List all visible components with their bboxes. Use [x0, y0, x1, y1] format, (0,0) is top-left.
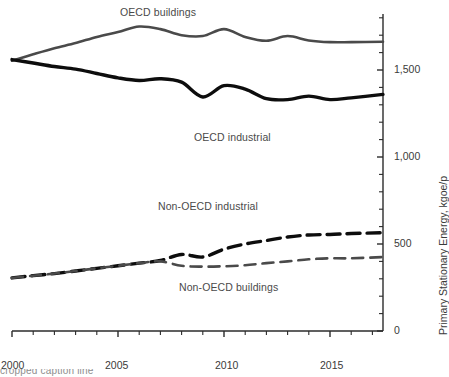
cropped-caption: cropped caption line [0, 369, 449, 377]
series-label-oecd-buildings: OECD buildings [120, 6, 196, 18]
series-label-non-oecd-buildings: Non-OECD buildings [179, 281, 278, 293]
series-label-non-oecd-industrial: Non-OECD industrial [158, 200, 258, 212]
y-tick-label-1000: 1,000 [394, 150, 420, 162]
series-label-oecd-industrial: OECD industrial [194, 131, 271, 143]
y-tick-label-500: 500 [394, 237, 412, 249]
series-line-oecd-buildings [12, 26, 383, 60]
chart-plot-area [0, 0, 449, 377]
cropped-caption-text: cropped caption line [0, 369, 449, 376]
y-tick-label-0: 0 [394, 324, 400, 336]
chart-figure: 1,500 1,000 500 0 2000 2005 2010 2015 Pr… [0, 0, 449, 377]
series-layer [12, 26, 383, 278]
series-line-non-oecd-buildings [12, 257, 383, 278]
y-tick-label-1500: 1,500 [394, 63, 420, 75]
series-line-oecd-industrial [12, 60, 383, 100]
y-axis-title: Primary Stationary Energy, kgoe/p [437, 176, 449, 335]
